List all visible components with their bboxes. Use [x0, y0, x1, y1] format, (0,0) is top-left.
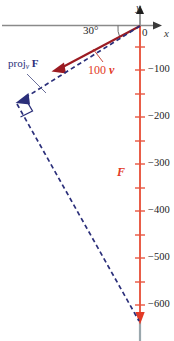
- projection-closing-line: [17, 104, 139, 321]
- y-tick-label-400: −400: [148, 205, 170, 216]
- diagram-canvas: [0, 0, 174, 341]
- proj-leader-line: [27, 74, 46, 93]
- y-tick-label-500: −500: [148, 252, 170, 263]
- vector-100v-magnitude: 100: [88, 63, 106, 77]
- angle-label: 30°: [83, 25, 98, 36]
- vector-100v-symbol: v: [109, 63, 114, 77]
- projection-label: projv F: [8, 58, 39, 71]
- origin-label: 0: [142, 27, 148, 38]
- y-tick-label-600: −600: [148, 299, 170, 310]
- angle-arc: [118, 26, 120, 38]
- force-vector-F: [135, 26, 144, 325]
- y-tick-label-300: −300: [148, 158, 170, 169]
- force-vector-label: F: [117, 166, 125, 178]
- y-tick-label-200: −200: [148, 111, 170, 122]
- projection-label-vector: F: [32, 57, 39, 69]
- x-axis: [2, 22, 162, 30]
- x-axis-label: x: [164, 28, 169, 39]
- vector-100v-label: 100 v: [88, 64, 114, 76]
- vector-label-leader-line: [93, 49, 103, 62]
- projection-label-main: proj: [8, 57, 26, 69]
- vector-projection-figure: y x 0 30° 100 v projv F F −100 −200 −300…: [0, 0, 174, 341]
- y-tick-label-100: −100: [148, 64, 170, 75]
- y-axis-label: y: [136, 2, 141, 13]
